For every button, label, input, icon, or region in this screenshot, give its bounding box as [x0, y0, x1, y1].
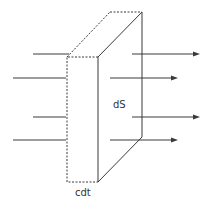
top-right-edge: [98, 12, 142, 57]
front-face-dashed: [67, 57, 98, 182]
arrowhead-icon: [193, 115, 200, 120]
slab-diagram: [0, 0, 208, 208]
arrowhead-icon: [171, 138, 178, 143]
arrowhead-icon: [171, 76, 178, 81]
arrowhead-icon: [193, 52, 200, 57]
surface-label: dS: [113, 99, 126, 110]
bottom-right-edge: [98, 137, 142, 182]
top-left-edge-dashed: [67, 12, 110, 57]
thickness-label: cdt: [75, 187, 91, 198]
